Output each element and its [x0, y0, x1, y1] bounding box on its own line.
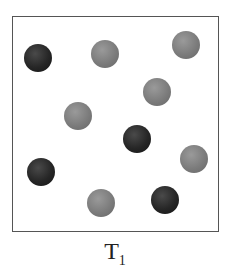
dark-particle [24, 44, 52, 72]
light-particle [87, 189, 115, 217]
label-main: T [104, 238, 119, 264]
light-particle [143, 78, 171, 106]
temperature-label: T1 [0, 238, 230, 269]
dark-particle [27, 158, 55, 186]
light-particle [172, 31, 200, 59]
dark-particle [151, 186, 179, 214]
light-particle [64, 102, 92, 130]
label-subscript: 1 [119, 253, 126, 268]
light-particle [180, 145, 208, 173]
light-particle [91, 40, 119, 68]
dark-particle [123, 125, 151, 153]
